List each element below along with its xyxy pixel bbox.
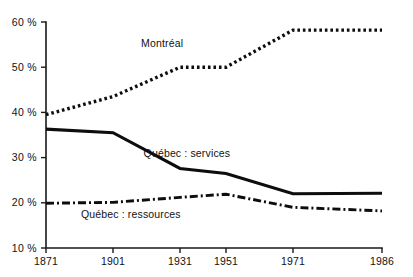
y-axis-tick-label: 30 % — [12, 151, 37, 163]
x-axis-tick-label: 1951 — [214, 255, 238, 267]
x-axis-tick-label: 1931 — [168, 255, 192, 267]
y-axis-tick-label: 50 % — [12, 61, 37, 73]
series-group — [46, 30, 382, 211]
y-axis-tick-label: 60 % — [12, 16, 37, 28]
y-axis-tick-labels: 60 %50 %40 %30 %20 %10 % — [12, 16, 37, 254]
x-axis-tick-label: 1986 — [370, 255, 394, 267]
series-label: Montréal — [141, 37, 183, 49]
series-line — [46, 129, 382, 194]
chart-figure: 60 %50 %40 %30 %20 %10 % 187119011931195… — [0, 0, 413, 277]
y-axis-tick-label: 10 % — [12, 242, 37, 254]
series-label: Québec : ressources — [81, 208, 181, 220]
x-axis-tick-labels: 187119011931195119711986 — [34, 255, 394, 267]
x-axis-tick-label: 1971 — [281, 255, 305, 267]
series-annotations: MontréalQuébec : servicesQuébec : ressou… — [81, 37, 230, 220]
y-axis-tick-label: 40 % — [12, 106, 37, 118]
x-axis-tick-label: 1901 — [101, 255, 125, 267]
x-axis-tick-label: 1871 — [34, 255, 58, 267]
series-label: Québec : services — [144, 147, 231, 159]
line-chart: 60 %50 %40 %30 %20 %10 % 187119011931195… — [0, 0, 413, 277]
y-axis-tick-label: 20 % — [12, 196, 37, 208]
clipped-caption-text — [38, 0, 398, 3]
series-line — [46, 30, 382, 115]
